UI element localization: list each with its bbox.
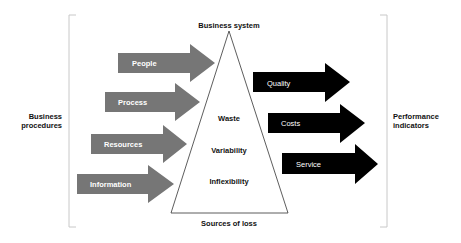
- arrow-label-service: Service: [296, 160, 321, 169]
- triangle-item-inflexibility: Inflexibility: [209, 177, 248, 186]
- business-system-label: Business system: [198, 21, 259, 30]
- business-procedures-line-1: Business: [21, 112, 62, 121]
- arrow-label-quality: Quality: [267, 79, 290, 88]
- triangle-item-waste: Waste: [218, 114, 240, 123]
- arrow-label-costs: Costs: [281, 119, 300, 128]
- arrow-label-people: People: [132, 59, 157, 68]
- right-bracket: [380, 15, 387, 227]
- business-procedures-label: Business procedures: [21, 112, 62, 130]
- performance-indicators-line-1: Performance: [393, 112, 439, 121]
- sources-of-loss-label: Sources of loss: [201, 219, 257, 228]
- left-bracket: [69, 15, 76, 227]
- performance-indicators-label: Performance indicators: [393, 112, 439, 130]
- arrow-label-process: Process: [118, 98, 147, 107]
- performance-indicators-line-2: indicators: [393, 121, 439, 130]
- triangle-item-variability: Variability: [211, 146, 246, 155]
- business-procedures-line-2: procedures: [21, 121, 62, 130]
- arrow-label-resources: Resources: [104, 140, 142, 149]
- arrow-label-information: Information: [90, 180, 131, 189]
